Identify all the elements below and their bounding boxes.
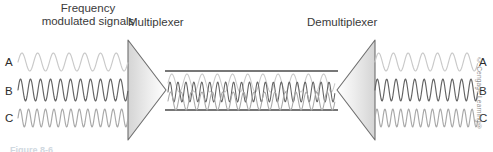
wave-path <box>18 109 128 127</box>
channel-label-c-left: C <box>5 112 13 124</box>
demultiplexer-label: Demultiplexer <box>307 16 377 29</box>
wave-path <box>18 79 128 101</box>
figure-caption: Figure 8-6 <box>10 145 53 152</box>
multiplexer-label: Multiplexer <box>128 16 184 29</box>
channel-label-a-left: A <box>5 56 13 68</box>
wave-path <box>375 109 478 127</box>
wave-path <box>18 53 128 71</box>
demultiplexer-triangle <box>337 40 375 140</box>
input-signal-waves <box>18 53 128 127</box>
wave-path <box>375 53 478 71</box>
copyright-credit: © Cengage Learning® <box>476 57 483 130</box>
multiplexer-triangle <box>128 40 166 140</box>
output-signal-waves <box>375 53 478 127</box>
figure-canvas: Frequency modulated signals Multiplexer … <box>0 0 493 152</box>
trunk-combined-waves <box>168 74 335 110</box>
channel-label-b-left: B <box>5 85 13 97</box>
wave-path <box>375 79 478 101</box>
